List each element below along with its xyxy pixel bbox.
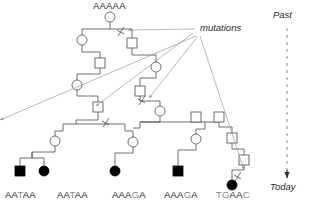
node-square [191,112,201,122]
sample-sequence-seq-4: AAAGA [164,189,198,200]
sample-individual [110,166,120,176]
mutations-label: mutations [200,22,241,33]
node-square [95,58,105,68]
sample-individual [173,166,183,176]
sequence-base: A [191,189,198,200]
mutation-arrow [128,29,195,30]
mutation-arrow [200,36,244,170]
mutation-arrows [0,29,244,170]
sample-sequence-seq-5: TGAAC [216,189,250,200]
mutation-marker [234,172,241,181]
node-square [127,38,137,48]
pedigree-figure: AAAAA mutations Past Today AATAAAATAAAAA… [0,0,314,207]
node-square [135,86,145,96]
today-label: Today [270,181,296,192]
past-label: Past [273,9,292,20]
node-circle [50,136,60,146]
node-founder [105,12,115,22]
mutation-marker [117,27,124,36]
sample-sequence-seq-3: AAAGA [112,189,146,200]
node-circle [77,35,87,45]
sequence-base: C [243,189,250,200]
node-circle [191,134,201,144]
mutation-marker [138,96,145,105]
node-square [214,112,224,122]
sequence-base: A [81,189,88,200]
mutation-markers [102,27,241,181]
sample-sequence-seq-1: AATAA [5,189,36,200]
sequence-base: G [222,189,230,200]
mutation-marker [102,118,109,127]
sequence-base: A [29,189,36,200]
sample-individual [39,166,49,176]
sample-sequence-seq-2: AATAA [57,189,88,200]
founder-sequence-label: AAAAA [93,0,126,11]
sample-individual [15,166,25,176]
node-square [93,102,103,112]
node-circle [128,137,138,147]
node-circle [155,106,165,116]
pedigree-graphic [0,0,314,207]
sequence-base: A [139,189,146,200]
pedigree-nodes [15,12,249,190]
